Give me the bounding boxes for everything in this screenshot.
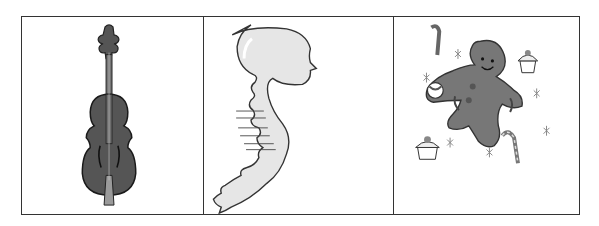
cell-skull-spine[interactable] [203, 17, 393, 214]
violin-icon [22, 17, 203, 214]
cell-violin[interactable] [22, 17, 203, 214]
skull-spine-icon [204, 17, 393, 214]
picture-table [21, 16, 580, 215]
gingerbread-man-icon [394, 17, 579, 214]
cell-gingerbread[interactable] [393, 17, 579, 214]
